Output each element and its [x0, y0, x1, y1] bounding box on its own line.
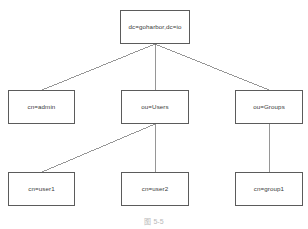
node-root[interactable]: dc=goharbor,dc=io — [120, 10, 190, 44]
node-label-root: dc=goharbor,dc=io — [129, 24, 182, 30]
node-label-groups: ou=Groups — [253, 104, 285, 110]
node-user2[interactable]: cn=user2 — [121, 172, 189, 206]
node-label-users: ou=Users — [141, 104, 168, 110]
diagram-canvas: dc=goharbor,dc=iocn=adminou=Usersou=Grou… — [0, 0, 308, 229]
node-group1[interactable]: cn=group1 — [235, 172, 303, 206]
edge-root-admin — [42, 44, 155, 90]
node-users[interactable]: ou=Users — [121, 90, 189, 124]
node-label-group1: cn=group1 — [254, 186, 284, 192]
figure-caption: 图 5-5 — [0, 216, 308, 226]
edge-users-user1 — [42, 124, 155, 172]
edge-root-groups — [155, 44, 269, 90]
node-label-user1: cn=user1 — [28, 186, 54, 192]
node-user1[interactable]: cn=user1 — [8, 172, 75, 206]
node-admin[interactable]: cn=admin — [8, 90, 75, 124]
node-label-admin: cn=admin — [28, 104, 56, 110]
node-groups[interactable]: ou=Groups — [235, 90, 303, 124]
node-label-user2: cn=user2 — [142, 186, 168, 192]
